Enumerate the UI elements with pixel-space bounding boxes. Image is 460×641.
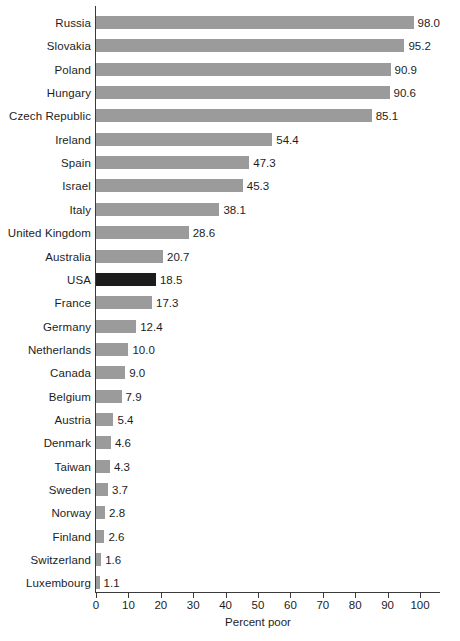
bar bbox=[96, 296, 152, 309]
category-label: Finland bbox=[0, 529, 91, 545]
bar-value-label: 18.5 bbox=[160, 272, 182, 288]
bar-value-label: 9.0 bbox=[129, 365, 145, 381]
bar-row: Slovakia95.2 bbox=[0, 38, 460, 54]
bar-value-label: 98.0 bbox=[418, 15, 440, 31]
bar-row: Denmark4.6 bbox=[0, 435, 460, 451]
bar bbox=[96, 320, 136, 333]
x-axis-tick-label: 100 bbox=[400, 599, 440, 611]
bar-value-label: 45.3 bbox=[247, 178, 269, 194]
bar bbox=[96, 343, 128, 356]
bar-row: Netherlands10.0 bbox=[0, 342, 460, 358]
bar-row: France17.3 bbox=[0, 295, 460, 311]
bar-value-label: 38.1 bbox=[223, 202, 245, 218]
category-label: Germany bbox=[0, 319, 91, 335]
category-label: Austria bbox=[0, 412, 91, 428]
bar-row: Germany12.4 bbox=[0, 319, 460, 335]
category-label: Australia bbox=[0, 249, 91, 265]
bar-row: United Kingdom28.6 bbox=[0, 225, 460, 241]
bar bbox=[96, 63, 391, 76]
bar-value-label: 1.1 bbox=[104, 575, 120, 591]
category-label: Slovakia bbox=[0, 38, 91, 54]
bar-value-label: 17.3 bbox=[156, 295, 178, 311]
category-label: Denmark bbox=[0, 435, 91, 451]
bar bbox=[96, 506, 105, 519]
category-label: Italy bbox=[0, 202, 91, 218]
bar bbox=[96, 483, 108, 496]
bar bbox=[96, 576, 100, 589]
category-label: Taiwan bbox=[0, 459, 91, 475]
bar-row: Taiwan4.3 bbox=[0, 459, 460, 475]
bar-value-label: 4.6 bbox=[115, 435, 131, 451]
x-axis-tick bbox=[420, 593, 421, 598]
bar-row: Switzerland1.6 bbox=[0, 552, 460, 568]
bar-value-label: 5.4 bbox=[117, 412, 133, 428]
bar-row: Norway2.8 bbox=[0, 505, 460, 521]
bar-row: Poland90.9 bbox=[0, 62, 460, 78]
category-label: Switzerland bbox=[0, 552, 91, 568]
bar-row: Italy38.1 bbox=[0, 202, 460, 218]
bar-row: Spain47.3 bbox=[0, 155, 460, 171]
category-label: Spain bbox=[0, 155, 91, 171]
bar-row: Canada9.0 bbox=[0, 365, 460, 381]
bar-value-label: 10.0 bbox=[132, 342, 154, 358]
bar bbox=[96, 273, 156, 286]
bar-row: Hungary90.6 bbox=[0, 85, 460, 101]
bar-chart: Russia98.0Slovakia95.2Poland90.9Hungary9… bbox=[0, 0, 460, 641]
bar bbox=[96, 436, 111, 449]
bar-value-label: 47.3 bbox=[253, 155, 275, 171]
bar-value-label: 2.8 bbox=[109, 505, 125, 521]
bar-value-label: 90.9 bbox=[395, 62, 417, 78]
category-label: Hungary bbox=[0, 85, 91, 101]
bar-value-label: 95.2 bbox=[408, 38, 430, 54]
bar-value-label: 54.4 bbox=[276, 132, 298, 148]
x-axis-tick bbox=[258, 593, 259, 598]
bar bbox=[96, 39, 404, 52]
bar-rows-container: Russia98.0Slovakia95.2Poland90.9Hungary9… bbox=[0, 0, 460, 592]
bar-value-label: 12.4 bbox=[140, 319, 162, 335]
category-label: Israel bbox=[0, 178, 91, 194]
x-axis-tick bbox=[323, 593, 324, 598]
x-axis-tick bbox=[161, 593, 162, 598]
bar bbox=[96, 16, 414, 29]
bar bbox=[96, 179, 243, 192]
bar-row: Australia20.7 bbox=[0, 249, 460, 265]
category-label: USA bbox=[0, 272, 91, 288]
bar-value-label: 4.3 bbox=[114, 459, 130, 475]
bar-row: Czech Republic85.1 bbox=[0, 108, 460, 124]
bar-value-label: 2.6 bbox=[108, 529, 124, 545]
bar-row: Israel45.3 bbox=[0, 178, 460, 194]
category-label: Sweden bbox=[0, 482, 91, 498]
bar bbox=[96, 250, 163, 263]
bar bbox=[96, 109, 372, 122]
bar-row: Russia98.0 bbox=[0, 15, 460, 31]
y-axis-line bbox=[95, 6, 96, 592]
bar bbox=[96, 413, 113, 426]
bar-value-label: 7.9 bbox=[126, 389, 142, 405]
x-axis-tick bbox=[355, 593, 356, 598]
category-label: Luxembourg bbox=[0, 575, 91, 591]
x-axis-title: Percent poor bbox=[96, 616, 420, 628]
x-axis-tick bbox=[128, 593, 129, 598]
bar-row: Finland2.6 bbox=[0, 529, 460, 545]
category-label: United Kingdom bbox=[0, 225, 91, 241]
bar-value-label: 1.6 bbox=[105, 552, 121, 568]
category-label: Belgium bbox=[0, 389, 91, 405]
bar-row: USA18.5 bbox=[0, 272, 460, 288]
bar-row: Belgium7.9 bbox=[0, 389, 460, 405]
category-label: Ireland bbox=[0, 132, 91, 148]
bar bbox=[96, 553, 101, 566]
bar bbox=[96, 86, 390, 99]
category-label: Norway bbox=[0, 505, 91, 521]
bar-value-label: 20.7 bbox=[167, 249, 189, 265]
bar-value-label: 28.6 bbox=[193, 225, 215, 241]
bar-value-label: 3.7 bbox=[112, 482, 128, 498]
bar-row: Luxembourg1.1 bbox=[0, 575, 460, 591]
bar bbox=[96, 156, 249, 169]
bar-value-label: 90.6 bbox=[394, 85, 416, 101]
bar-row: Sweden3.7 bbox=[0, 482, 460, 498]
bar bbox=[96, 133, 272, 146]
bar-row: Ireland54.4 bbox=[0, 132, 460, 148]
x-axis-tick bbox=[388, 593, 389, 598]
category-label: France bbox=[0, 295, 91, 311]
bar-value-label: 85.1 bbox=[376, 108, 398, 124]
